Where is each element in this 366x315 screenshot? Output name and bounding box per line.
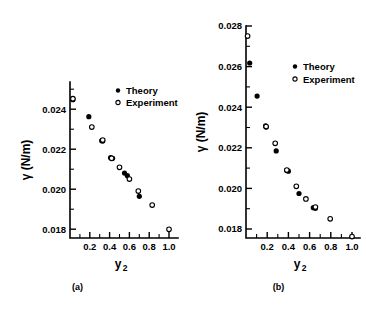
data-point <box>137 194 142 199</box>
x-axis-major-ticks-a <box>90 232 169 238</box>
x-tick-label-b-3: 0.8 <box>324 241 337 252</box>
data-point <box>90 125 95 130</box>
y-tick-label-a-3: 0.024 <box>42 104 66 115</box>
legend-label-theory-b: Theory <box>303 61 335 72</box>
legend-marker-experiment-a <box>116 100 120 104</box>
scatter-plot-a: 0.018 0.020 0.022 0.024 0.2 0.4 0.6 0.8 … <box>0 0 183 315</box>
data-point <box>304 197 309 202</box>
data-point <box>274 148 279 153</box>
data-point <box>150 203 155 208</box>
chart-panel-b: 0.018 0.020 0.022 0.024 0.026 0.028 0.2 … <box>183 0 366 315</box>
x-tick-label-a-1: 0.4 <box>103 241 117 252</box>
figure-container: 0.018 0.020 0.022 0.024 0.2 0.4 0.6 0.8 … <box>0 0 366 315</box>
x-tick-label-a-3: 0.8 <box>143 241 156 252</box>
legend-marker-theory-b <box>293 64 297 68</box>
y-tick-label-b-4: 0.026 <box>218 61 242 72</box>
data-point <box>136 189 141 194</box>
x-axis-title-sub-b: 2 <box>302 263 307 273</box>
x-tick-label-b-2: 0.6 <box>303 241 316 252</box>
x-tick-label-b-1: 0.4 <box>282 241 296 252</box>
y-axis-title-b: γ (N/m) <box>194 112 208 153</box>
data-point <box>247 60 252 65</box>
data-point <box>71 96 76 101</box>
data-point <box>294 184 299 189</box>
legend-b: Theory Experiment <box>293 61 356 85</box>
data-point <box>86 114 91 119</box>
y-tick-label-b-0: 0.018 <box>218 223 242 234</box>
x-tick-label-a-2: 0.6 <box>123 241 136 252</box>
x-tick-label-a-0: 0.2 <box>83 241 96 252</box>
y-tick-label-b-5: 0.028 <box>218 20 242 31</box>
legend-a: Theory Experiment <box>116 85 179 108</box>
panel-caption-a: (a) <box>0 282 169 292</box>
axis-spines-b <box>246 26 360 238</box>
scatter-plot-b: 0.018 0.020 0.022 0.024 0.026 0.028 0.2 … <box>183 0 366 315</box>
y-tick-label-b-3: 0.024 <box>218 102 242 113</box>
y-tick-label-a-0: 0.018 <box>42 224 66 235</box>
data-point <box>350 234 355 239</box>
x-axis-major-ticks-b <box>267 232 352 238</box>
data-point <box>285 168 290 173</box>
legend-label-experiment-b: Experiment <box>303 74 356 85</box>
series-theory-a <box>70 97 142 199</box>
x-tick-label-b-4: 1.0 <box>345 241 358 252</box>
data-point <box>255 94 260 99</box>
data-point <box>328 217 333 222</box>
legend-label-experiment-a: Experiment <box>126 97 179 108</box>
data-point <box>296 191 301 196</box>
y-tick-label-a-1: 0.020 <box>42 184 66 195</box>
data-point <box>100 138 105 143</box>
y-tick-label-b-1: 0.020 <box>218 183 242 194</box>
data-point <box>167 227 172 232</box>
series-experiment-a <box>71 96 172 231</box>
x-tick-label-a-4: 1.0 <box>162 241 175 252</box>
data-point <box>264 124 269 129</box>
series-experiment-b <box>245 34 354 239</box>
legend-marker-experiment-b <box>293 77 297 81</box>
chart-panel-a: 0.018 0.020 0.022 0.024 0.2 0.4 0.6 0.8 … <box>0 0 183 315</box>
x-axis-title-b: y <box>294 257 301 271</box>
data-point <box>127 177 132 182</box>
x-tick-label-b-0: 0.2 <box>261 241 274 252</box>
data-point <box>117 165 122 170</box>
data-point <box>245 34 250 39</box>
x-axis-title-a: y <box>115 257 122 271</box>
legend-label-theory-a: Theory <box>126 85 158 96</box>
y-tick-label-a-2: 0.022 <box>42 144 66 155</box>
y-tick-label-b-2: 0.022 <box>218 142 242 153</box>
data-point <box>313 205 318 210</box>
panel-caption-b: (b) <box>187 282 366 292</box>
y-axis-title-a: γ (N/m) <box>19 140 33 181</box>
legend-marker-theory-a <box>116 88 120 92</box>
data-point <box>109 156 114 161</box>
data-point <box>273 141 278 146</box>
x-axis-title-sub-a: 2 <box>123 263 128 273</box>
